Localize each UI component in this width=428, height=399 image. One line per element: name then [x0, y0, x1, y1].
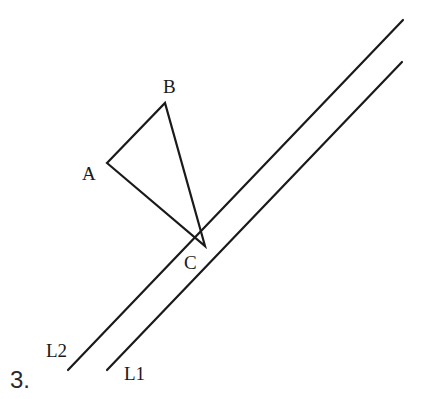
line-label-l2: L2 — [46, 340, 67, 361]
diagram-svg: A B C L2 L1 3. — [0, 0, 428, 399]
line-l1 — [107, 62, 402, 370]
line-l2 — [68, 20, 403, 370]
vertex-label-c: C — [184, 252, 197, 273]
triangle-abc — [107, 103, 205, 246]
line-label-l1: L1 — [124, 363, 145, 384]
geometry-diagram: A B C L2 L1 3. — [0, 0, 428, 399]
vertex-label-a: A — [82, 163, 96, 184]
vertex-label-b: B — [163, 76, 176, 97]
problem-number: 3. — [10, 366, 30, 393]
